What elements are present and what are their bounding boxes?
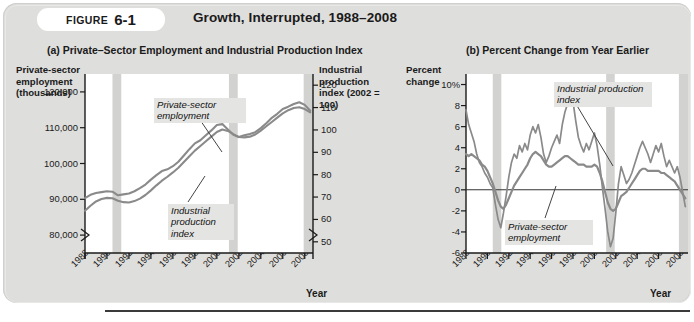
panel-b-recession-band [679, 74, 688, 253]
charts-svg [0, 0, 694, 322]
panel-a-recession-band [112, 74, 121, 253]
panel-a-annotation-employment: Private-sector employment [154, 98, 246, 123]
panel-b-annotation-employment: Private-sector employment [505, 220, 593, 245]
bottom-rule [105, 310, 690, 312]
figure-root: FIGURE 6-1 Growth, Interrupted, 1988–200… [0, 0, 694, 322]
panel-a-recession-band [304, 74, 313, 253]
panel-a-annotation-ipi: Industrial production index [168, 204, 234, 240]
panel-b-annotation-ipi: Industrial production index [554, 82, 652, 107]
